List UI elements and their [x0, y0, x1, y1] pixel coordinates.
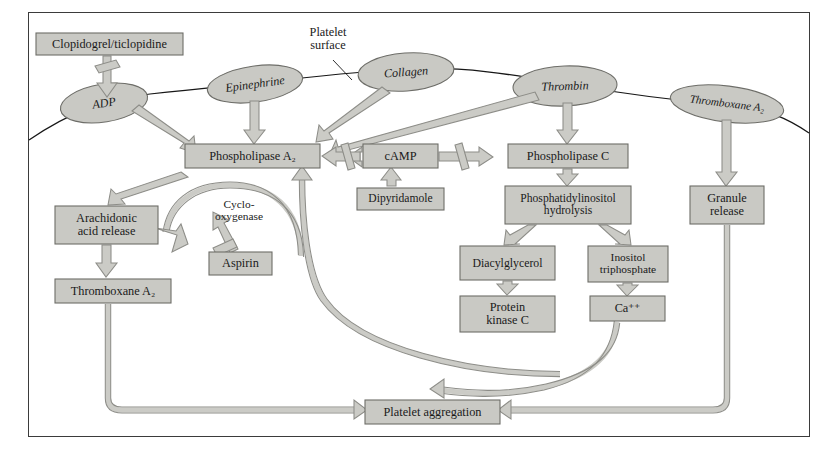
- arrow-epinephrine-to-pla2: [244, 101, 265, 144]
- arrow-camp-inhibits-plc: [439, 143, 493, 170]
- box-diacylglycerol[interactable]: [460, 246, 555, 280]
- platelet-surface-leader: [333, 60, 352, 80]
- box-phosphatidylinositol-hydrolysis[interactable]: [505, 186, 631, 224]
- box-clopidogrel-ticlopidine[interactable]: [36, 33, 183, 55]
- box-aspirin[interactable]: [209, 252, 272, 275]
- diagram-canvas: .bx{fill:#c9c9c4;stroke:#6d6d68;stroke-w…: [0, 0, 821, 449]
- arrow-aspirin-inhibits-cox: [213, 212, 238, 256]
- pathway-graphics: .bx{fill:#c9c9c4;stroke:#6d6d68;stroke-w…: [0, 0, 821, 449]
- arrow-thromboxane-receptor-to-granule: [716, 120, 737, 186]
- box-thromboxane-a2-product[interactable]: [55, 279, 171, 303]
- box-calcium-ion[interactable]: [590, 296, 665, 321]
- box-phospholipase-a2[interactable]: [185, 144, 320, 168]
- box-granule-release[interactable]: [690, 186, 764, 224]
- arrow-collagen-to-pla2: [316, 87, 390, 142]
- arrow-plc-to-pi: [557, 169, 578, 186]
- arrow-txa2-to-aggregation: [105, 304, 367, 419]
- arrow-pi-to-dag: [504, 225, 536, 245]
- arrow-ip3-to-calcium: [617, 283, 638, 296]
- arrow-arachidonic-to-txa2: [96, 245, 117, 277]
- arrow-pla2-to-arachidonic: [108, 172, 188, 205]
- arrow-dag-to-pkc: [497, 281, 518, 295]
- arrow-dipyridamole-to-camp: [381, 167, 401, 186]
- box-dipyridamole[interactable]: [357, 188, 444, 210]
- box-phospholipase-c[interactable]: [508, 144, 628, 168]
- box-platelet-aggregation[interactable]: [365, 400, 500, 424]
- receptor-ellipse-collagen[interactable]: [357, 50, 455, 95]
- box-arachidonic-acid-release[interactable]: [55, 206, 158, 244]
- arrow-pi-to-ip3: [599, 225, 631, 245]
- arrow-thrombin-to-plc: [557, 103, 578, 144]
- box-camp[interactable]: [363, 144, 438, 168]
- box-protein-kinase-c[interactable]: [460, 296, 555, 332]
- box-inositol-triphosphate[interactable]: [588, 246, 668, 282]
